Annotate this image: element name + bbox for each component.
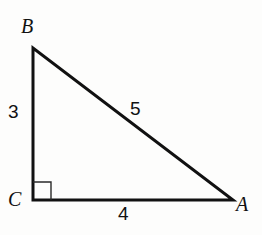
vertex-label-b: B [21,16,33,36]
vertex-label-a: A [236,194,248,214]
side-length-label-bc: 3 [8,102,19,121]
side-length-label-ca: 4 [118,204,129,223]
vertex-label-c: C [8,189,21,209]
right-angle-marker-icon [33,182,51,200]
triangle-outline [33,48,233,200]
right-triangle-figure: B C A 3 5 4 [0,0,262,235]
side-length-label-ba: 5 [130,99,141,118]
